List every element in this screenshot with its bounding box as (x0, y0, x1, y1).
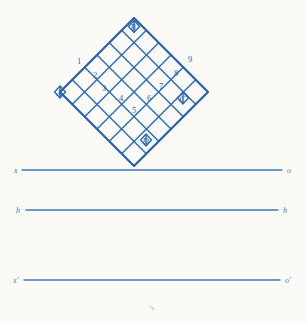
reference-line-hh-right-label: h (283, 206, 287, 215)
cell-number-3: 3 (102, 83, 106, 93)
cell-number-9: 9 (188, 54, 192, 64)
cell-number-4: 4 (119, 93, 124, 103)
reference-line-hh: h h (16, 206, 287, 215)
cell-number-7: 7 (159, 81, 163, 91)
reference-line-xo-prime-left-label: x′ (12, 276, 19, 285)
cell-number-5: 5 (132, 105, 136, 115)
reference-line-xo-prime: x′ o′ (12, 276, 291, 285)
point-label-B: B (131, 22, 136, 32)
lattice-grid (60, 18, 208, 166)
cell-number-8: 8 (174, 68, 178, 78)
reference-line-xo-right-label: o (287, 166, 291, 175)
reference-line-xo-prime-right-label: o′ (285, 276, 291, 285)
lattice-diagram: A B C D 1 2 3 4 5 6 7 8 9 x o h h (0, 0, 307, 323)
lattice-lines-family-b (60, 18, 208, 166)
cell-number-2: 2 (93, 70, 97, 80)
figure-root: A B C D 1 2 3 4 5 6 7 8 9 x o h h (0, 0, 307, 323)
point-label-A: A (56, 88, 63, 98)
reference-line-hh-left-label: h (16, 206, 20, 215)
cell-number-6: 6 (147, 93, 151, 103)
point-label-C: C (180, 94, 186, 104)
point-label-D: D (142, 136, 150, 146)
footnote-mark: °s (149, 305, 154, 311)
cell-number-1: 1 (77, 56, 81, 66)
reference-line-xo-left-label: x (13, 166, 18, 175)
reference-line-xo: x o (13, 166, 291, 175)
